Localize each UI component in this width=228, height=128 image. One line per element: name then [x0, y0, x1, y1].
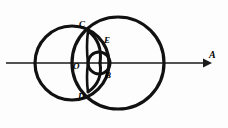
geometry-figure: C D E B O A: [0, 0, 228, 128]
label-C: C: [79, 20, 85, 29]
label-D: D: [78, 92, 85, 101]
label-E: E: [104, 36, 110, 45]
geometry-canvas: [0, 0, 228, 128]
label-A: A: [209, 50, 216, 60]
label-B: B: [105, 71, 111, 80]
inner-arc-left-upper: [87, 31, 88, 63]
label-O: O: [73, 62, 80, 71]
inner-arc-left-lower: [87, 63, 88, 92]
